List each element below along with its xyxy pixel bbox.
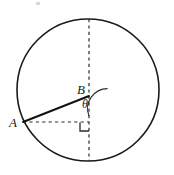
angle-arc-theta [88, 89, 108, 116]
circle-outline [17, 19, 159, 161]
figure-canvas [0, 0, 174, 175]
chord-segment-AB [23, 96, 89, 122]
point-label-A: A [9, 116, 17, 129]
geometry-figure: A B θ [0, 0, 174, 175]
angle-label-theta: θ [82, 98, 88, 110]
right-angle-marker [80, 123, 89, 132]
point-label-B: B [77, 83, 85, 96]
